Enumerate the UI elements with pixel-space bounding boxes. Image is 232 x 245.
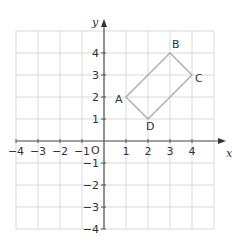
origin-label: O	[91, 144, 100, 157]
x-tick-label: 2	[145, 145, 152, 158]
y-tick-label: −3	[83, 201, 99, 214]
vertex-label-d: D	[146, 120, 154, 133]
x-tick-label: 1	[123, 145, 130, 158]
y-tick-label: −2	[83, 179, 99, 192]
x-tick-label: −2	[52, 145, 68, 158]
y-tick-label: 4	[92, 47, 99, 60]
axes: xyO	[16, 16, 232, 229]
x-tick-label: −3	[30, 145, 46, 158]
vertex-label-b: B	[172, 38, 180, 51]
y-tick-label: 2	[92, 91, 99, 104]
x-axis-arrow-icon	[218, 138, 226, 144]
vertex-label-c: C	[195, 72, 203, 85]
x-axis-label: x	[226, 147, 232, 160]
x-tick-label: −4	[8, 145, 24, 158]
y-tick-label: 3	[92, 69, 99, 82]
y-axis-arrow-icon	[101, 19, 107, 27]
y-axis-label: y	[91, 16, 99, 29]
vertex-label-a: A	[115, 93, 123, 106]
y-tick-label: −4	[83, 223, 99, 236]
y-tick-label: −1	[83, 157, 99, 170]
rectangle-outline	[126, 53, 192, 119]
grid-lines	[16, 31, 214, 229]
x-tick-label: 4	[189, 145, 196, 158]
x-tick-label: 3	[167, 145, 174, 158]
coordinate-grid-plot: xyO −4−3−2−11234−4−3−2−11234 ABCD	[0, 0, 232, 245]
y-tick-label: 1	[92, 113, 99, 126]
